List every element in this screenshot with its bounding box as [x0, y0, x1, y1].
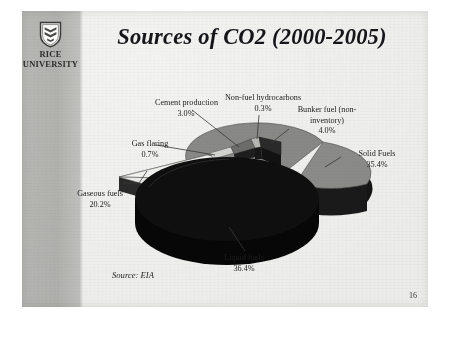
pie-label-cement-production-value: 3.0%: [155, 109, 217, 120]
pie-label-cement-production-text: Cement production: [155, 98, 218, 107]
page-number: 16: [409, 291, 417, 300]
pie-slice-liquid-fuels: [135, 157, 319, 265]
pie-label-liquid-fuels: Liquid fuels 36.4%: [204, 253, 284, 274]
pie-label-gas-flaring: Gas flaring 0.7%: [115, 139, 185, 160]
pie-label-bunker-fuel: Bunker fuel (non-inventory) 4.0%: [284, 105, 370, 137]
pie-label-solid-fuels-value: 35.4%: [344, 160, 410, 171]
pie-label-gaseous-fuels-text: Gaseous fuels: [77, 189, 123, 198]
pie-label-bunker-fuel-value: 4.0%: [284, 126, 370, 137]
page-title: Sources of CO2 (2000-2005): [82, 24, 422, 50]
slide-root: RICE UNIVERSITY Sources of CO2 (2000-200…: [0, 0, 450, 352]
pie-label-non-fuel-hydrocarbons-text: Non-fuel hydrocarbons: [225, 93, 301, 102]
pie-label-bunker-fuel-text: Bunker fuel (non-inventory): [298, 105, 357, 125]
pie-label-gaseous-fuels: Gaseous fuels 20.2%: [57, 189, 143, 210]
pie-label-liquid-fuels-value: 36.4%: [204, 264, 284, 275]
pie-label-liquid-fuels-text: Liquid fuels: [224, 253, 264, 262]
brand-name-line-1: RICE: [22, 50, 79, 59]
pie-label-solid-fuels: Solid Fuels 35.4%: [344, 149, 410, 170]
pie-label-solid-fuels-text: Solid Fuels: [358, 149, 395, 158]
source-note: Source: EIA: [112, 270, 154, 280]
scanned-slide: RICE UNIVERSITY Sources of CO2 (2000-200…: [22, 11, 428, 307]
pie-label-gaseous-fuels-value: 20.2%: [57, 200, 143, 211]
brand-name-line-2: UNIVERSITY: [22, 60, 79, 69]
pie-label-gas-flaring-value: 0.7%: [115, 150, 185, 161]
pie-label-gas-flaring-text: Gas flaring: [132, 139, 169, 148]
pie-label-cement-production: Cement production 3.0%: [155, 98, 217, 119]
rice-university-shield-icon: [39, 21, 62, 48]
